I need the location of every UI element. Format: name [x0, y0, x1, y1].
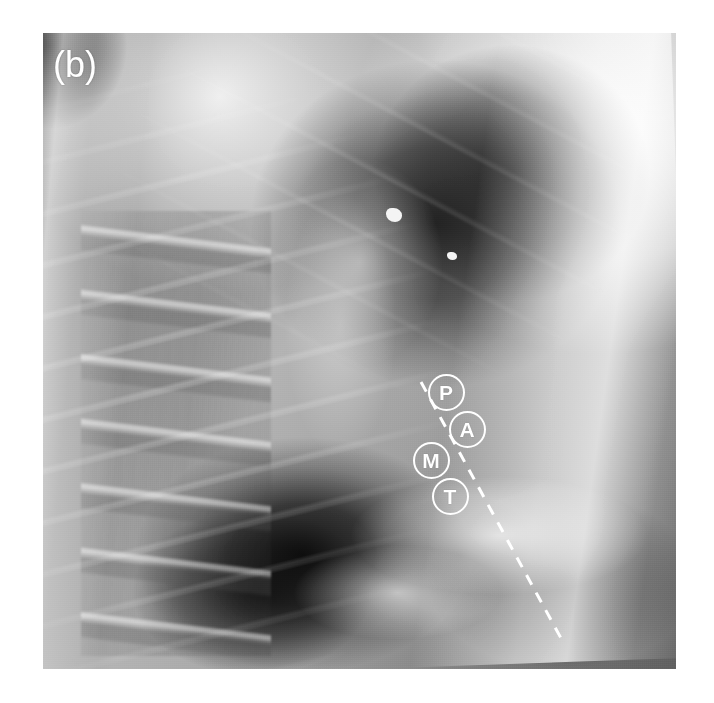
panel-label: (b): [53, 44, 97, 86]
marker-label-p: P: [439, 381, 453, 404]
annotation-overlay: P A M T (b): [0, 0, 714, 703]
figure-root: P A M T (b): [0, 0, 714, 703]
marker-label-m: M: [422, 449, 440, 472]
marker-circle-p[interactable]: P: [428, 374, 465, 411]
mediastinal-divider-line: [0, 0, 714, 703]
marker-label-a: A: [459, 418, 474, 441]
marker-circle-t[interactable]: T: [432, 478, 469, 515]
marker-label-t: T: [444, 485, 457, 508]
marker-circle-m[interactable]: M: [413, 442, 450, 479]
marker-circle-a[interactable]: A: [449, 411, 486, 448]
